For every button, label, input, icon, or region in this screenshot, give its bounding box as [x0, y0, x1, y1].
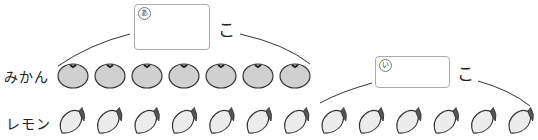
orange-icon — [243, 64, 273, 88]
lemon-icon — [509, 107, 533, 133]
lemon-icon — [397, 107, 421, 133]
fruit-layer — [0, 0, 538, 140]
orange-icon — [132, 64, 162, 88]
lemon-icon — [322, 107, 346, 133]
lemon-icon — [172, 107, 196, 133]
orange-icon — [169, 64, 199, 88]
lemon-icon — [98, 107, 122, 133]
orange-icon — [58, 64, 88, 88]
orange-icon — [95, 64, 125, 88]
lemon-icon — [472, 107, 496, 133]
lemon-icon — [434, 107, 458, 133]
lemon-icon — [359, 107, 383, 133]
orange-icon — [280, 64, 310, 88]
lemon-icon — [210, 107, 234, 133]
lemon-icon — [247, 107, 271, 133]
lemon-icon — [60, 107, 84, 133]
lemon-icon — [285, 107, 309, 133]
lemon-icon — [135, 107, 159, 133]
orange-icon — [206, 64, 236, 88]
